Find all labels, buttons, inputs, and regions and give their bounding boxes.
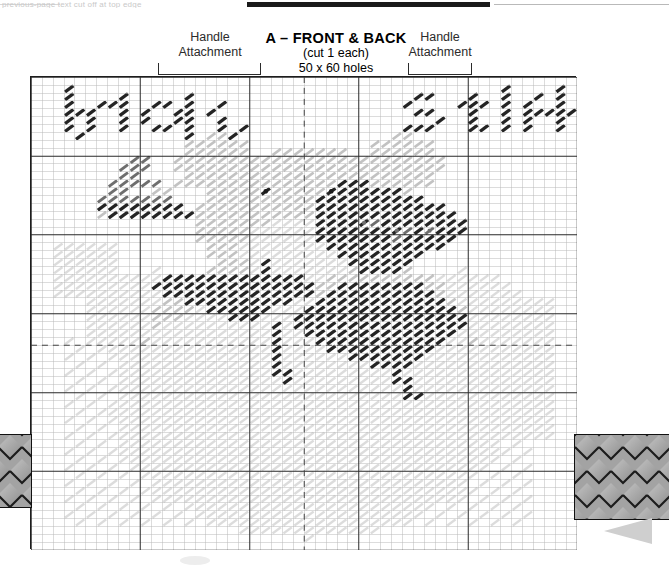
handle-attachment-left-line2: Attachment [146, 45, 274, 60]
handle-attachment-bracket-right [408, 63, 472, 75]
handle-attachment-right-line2: Attachment [376, 45, 504, 60]
top-cutoff-bar [247, 2, 490, 7]
handle-attachment-right-line1: Handle [376, 30, 504, 45]
handle-attachment-left-line1: Handle [146, 30, 274, 45]
handle-attachment-label-left: Handle Attachment [146, 30, 274, 60]
handle-attachment-label-right: Handle Attachment [376, 30, 504, 60]
top-cutoff-rule-right [494, 4, 669, 5]
quilt-tab-right [574, 434, 669, 520]
page-turn-arrow-icon [604, 518, 652, 544]
stitch-chart-grid [30, 76, 576, 549]
quilt-tab-left [0, 434, 32, 508]
handle-attachment-bracket-left [158, 63, 261, 75]
page-root: previous-page text cut off at top edge A… [0, 0, 669, 568]
top-cutoff-text: previous-page text cut off at top edge [2, 0, 232, 8]
canvas-size-label: 50 x 60 holes [236, 61, 436, 75]
page-smudge [180, 556, 210, 565]
